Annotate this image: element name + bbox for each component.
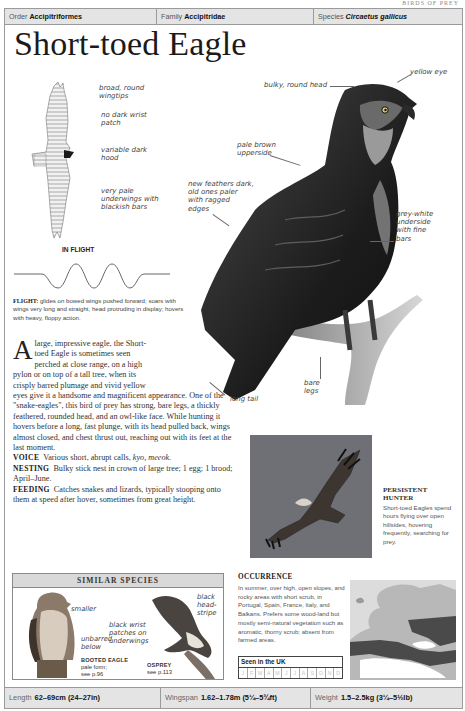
nesting-section: NESTING Bulky stick nest in crown of lar… bbox=[13, 464, 235, 485]
taxonomy-species: Species Circaetus gallicus bbox=[314, 9, 462, 24]
seen-in-uk-calendar: Seen in the UK J F M A M J J A S O N D bbox=[238, 656, 343, 679]
label-underwings: very pale underwings with blackish bars bbox=[101, 187, 159, 212]
label-bulky-head: bulky, round head bbox=[264, 81, 327, 89]
wingspan-measurement: Wingspan1.62–1.78m (5¼–5¾ft) bbox=[161, 688, 311, 708]
label-dark-hood: variable dark hood bbox=[101, 146, 147, 162]
voice-section: VOICE Various short, abrupt calls, kyo, … bbox=[13, 453, 235, 463]
month-jan: J bbox=[239, 668, 248, 678]
booted-eagle-illustration bbox=[23, 590, 83, 680]
month-feb: F bbox=[248, 668, 257, 678]
occurrence-text: In summer, over high, open slopes, and r… bbox=[238, 584, 348, 645]
weight-measurement: Weight1.5–2.5kg (3¼–5½lb) bbox=[311, 688, 462, 708]
month-may: M bbox=[274, 668, 283, 678]
label-underside: grey-white underside with fine bars bbox=[396, 210, 433, 243]
flying-eagle-photo-image bbox=[250, 435, 372, 558]
osprey-name: OSPREY see p.113 bbox=[147, 662, 172, 676]
drop-cap: A bbox=[13, 340, 33, 360]
species-value: Circaetus gallicus bbox=[346, 12, 408, 21]
month-nov: N bbox=[326, 668, 335, 678]
month-sep: S bbox=[308, 668, 317, 678]
month-aug: A bbox=[300, 668, 309, 678]
month-grid: J F M A M J J A S O N D bbox=[239, 668, 342, 678]
similar-species-panel: SIMILAR SPECIES smaller unbarred below B… bbox=[12, 573, 224, 680]
month-oct: O bbox=[317, 668, 326, 678]
flight-description: FLIGHT: glides on bowed wings pushed for… bbox=[13, 297, 188, 322]
month-jun: J bbox=[282, 668, 291, 678]
label-bare-legs: bare legs bbox=[304, 379, 320, 395]
similar-species-heading: SIMILAR SPECIES bbox=[13, 574, 223, 588]
range-map-image bbox=[350, 580, 456, 680]
month-jul: J bbox=[291, 668, 300, 678]
month-apr: A bbox=[265, 668, 274, 678]
page-title: Short-toed Eagle bbox=[14, 25, 247, 63]
length-measurement: Length62–69cm (24–27in) bbox=[5, 688, 161, 708]
flight-pattern-wave bbox=[12, 262, 172, 292]
photo-caption: PERSISTENT HUNTER Short-toed Eagles spen… bbox=[383, 486, 458, 546]
label-smaller: smaller bbox=[71, 606, 96, 614]
species-description: A large, impressive eagle, the Short- to… bbox=[13, 339, 245, 506]
family-value: Accipitridae bbox=[184, 12, 225, 21]
running-head: BIRDS OF PREY bbox=[402, 0, 459, 8]
label-head-stripe: black head- stripe bbox=[197, 594, 216, 617]
label-unbarred: unbarred below bbox=[81, 636, 112, 652]
leader-line bbox=[370, 241, 394, 242]
flying-eagle-photo bbox=[250, 435, 372, 558]
taxonomy-family: Family Accipitridae bbox=[157, 9, 314, 24]
label-wrist-patch: no dark wrist patch bbox=[101, 111, 147, 127]
feeding-section: FEEDING Catches snakes and lizards, typi… bbox=[13, 485, 235, 506]
order-value: Accipitriformes bbox=[29, 12, 82, 21]
booted-eagle-name: BOOTED EAGLE pale form; see p.96 bbox=[81, 657, 128, 679]
occurrence-heading: OCCURRENCE bbox=[238, 573, 293, 581]
leader-line bbox=[330, 86, 354, 87]
flight-bird-illustration bbox=[30, 82, 90, 240]
label-yellow-eye: yellow eye bbox=[410, 68, 447, 76]
month-mar: M bbox=[256, 668, 265, 678]
range-map bbox=[350, 580, 456, 680]
measurements-bar: Length62–69cm (24–27in) Wingspan1.62–1.7… bbox=[4, 687, 463, 709]
leader-line bbox=[320, 357, 321, 379]
label-wingtips: broad, round wingtips bbox=[99, 84, 144, 100]
seen-in-uk-title: Seen in the UK bbox=[239, 657, 342, 668]
label-wrist-patches: black wrist patches on underwings bbox=[109, 622, 149, 645]
month-dec: D bbox=[334, 668, 342, 678]
taxonomy-bar: Order Accipitriformes Family Accipitrida… bbox=[4, 8, 463, 25]
in-flight-heading: IN FLIGHT bbox=[62, 246, 94, 253]
label-feathers: new feathers dark, old ones paler with r… bbox=[188, 180, 254, 213]
taxonomy-order: Order Accipitriformes bbox=[5, 9, 157, 24]
